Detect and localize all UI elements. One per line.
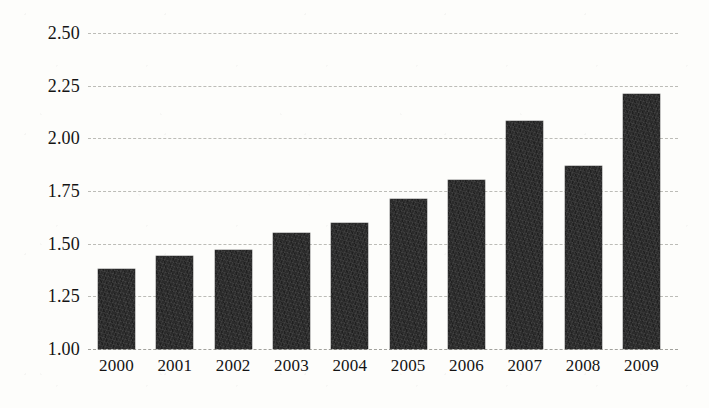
y-tick-label: 2.50 <box>10 24 80 42</box>
y-tick-label: 1.00 <box>10 340 80 358</box>
x-tick-label: 2009 <box>607 356 677 376</box>
y-tick-label: 1.25 <box>10 287 80 305</box>
bar-chart: 2.50 2.25 2.00 1.75 1.50 1.25 1.00 20002… <box>0 0 709 408</box>
y-axis: 2.50 2.25 2.00 1.75 1.50 1.25 1.00 <box>8 33 80 349</box>
y-tick-label: 1.50 <box>10 235 80 253</box>
y-tick-label: 2.00 <box>10 129 80 147</box>
y-tick-label: 1.75 <box>10 182 80 200</box>
x-axis: 2000200120022003200420052006200720082009 <box>88 0 688 408</box>
y-tick-label: 2.25 <box>10 77 80 95</box>
